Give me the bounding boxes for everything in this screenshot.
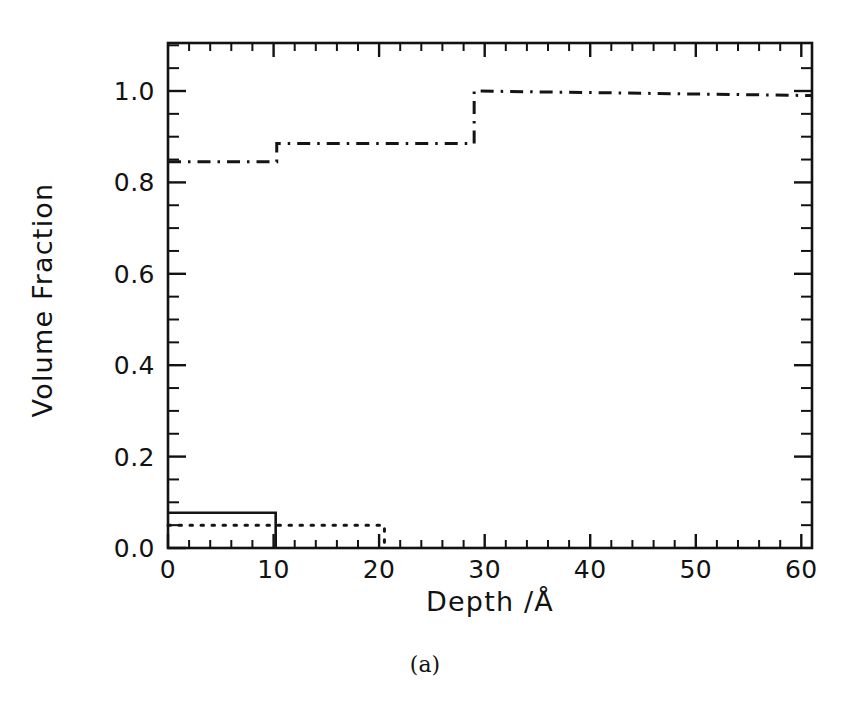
figure-panel: 0 10 20 30 40 50 60 0.0 0.2 0.4 0.6 0.8 … (0, 0, 853, 721)
series-surface-layer-solid (168, 513, 276, 548)
x-tick-label-30: 30 (468, 555, 501, 584)
y-tick-label-02: 0.2 (114, 443, 155, 472)
x-tick-label-0: 0 (160, 555, 176, 584)
y-tick-label-00: 0.0 (114, 534, 155, 563)
y-tick-label-08: 0.8 (114, 168, 155, 197)
y-tick-label-06: 0.6 (114, 260, 155, 289)
plot-frame (168, 43, 812, 548)
x-axis-tick-labels: 0 10 20 30 40 50 60 (160, 555, 818, 584)
y-axis-tick-labels: 0.0 0.2 0.4 0.6 0.8 1.0 (114, 77, 155, 563)
x-axis-title: Depth /Å (426, 586, 554, 617)
y-tick-label-10: 1.0 (114, 77, 155, 106)
volume-fraction-chart: 0 10 20 30 40 50 60 0.0 0.2 0.4 0.6 0.8 … (0, 0, 853, 721)
y-axis-ticks-right (794, 68, 812, 525)
y-tick-label-04: 0.4 (114, 351, 155, 380)
x-tick-label-50: 50 (679, 555, 712, 584)
y-axis-minor-ticks (168, 45, 179, 525)
x-axis-major-ticks (168, 534, 801, 548)
x-tick-label-60: 60 (785, 555, 818, 584)
y-axis-title: Volume Fraction (27, 183, 58, 418)
x-tick-label-20: 20 (363, 555, 396, 584)
x-axis-ticks-top (189, 43, 801, 57)
x-tick-label-10: 10 (257, 555, 290, 584)
series-polymer-profile-dashdot (168, 91, 812, 162)
figure-caption: (a) (410, 652, 440, 677)
x-tick-label-40: 40 (574, 555, 607, 584)
